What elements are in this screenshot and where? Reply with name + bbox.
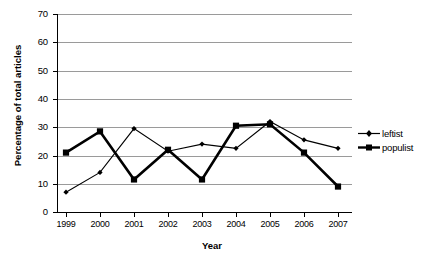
data-point-populist-1999: [63, 150, 69, 156]
x-tick-2002: [168, 213, 169, 217]
x-tick-2003: [202, 213, 203, 217]
leftist-marker-icon: [358, 127, 380, 140]
legend-item-leftist[interactable]: leftist: [358, 127, 424, 141]
y-tick-label-20: 20: [22, 151, 48, 161]
x-tick-2007: [338, 213, 339, 217]
data-point-leftist-1999: [63, 190, 68, 195]
y-tick-label-50: 50: [22, 66, 48, 76]
y-tick-label-10: 10: [22, 179, 48, 189]
y-tick-0: [53, 212, 57, 213]
y-tick-label-30: 30: [22, 122, 48, 132]
x-tick-2001: [134, 213, 135, 217]
data-point-populist-2000: [97, 128, 103, 134]
legend-item-populist[interactable]: populist: [358, 141, 424, 155]
legend: leftist populist: [358, 127, 424, 155]
x-axis-title: Year: [0, 240, 424, 251]
x-tick-1999: [66, 213, 67, 217]
x-tick-2005: [270, 213, 271, 217]
data-point-populist-2001: [131, 176, 137, 182]
series-layer: [57, 14, 352, 212]
x-tick-2006: [304, 213, 305, 217]
data-point-populist-2003: [199, 176, 205, 182]
populist-marker-icon: [358, 141, 380, 154]
data-point-populist-2004: [233, 123, 239, 129]
data-point-populist-2006: [301, 150, 307, 156]
legend-label-populist: populist: [382, 142, 413, 153]
y-axis-title: Percentage of total articles: [12, 31, 23, 181]
data-point-populist-2002: [165, 147, 171, 153]
data-point-leftist-2007: [335, 146, 340, 151]
legend-label-leftist: leftist: [382, 128, 403, 139]
x-tick-2000: [100, 213, 101, 217]
y-tick-label-70: 70: [22, 9, 48, 19]
y-tick-label-60: 60: [22, 37, 48, 47]
y-tick-label-40: 40: [22, 94, 48, 104]
data-point-leftist-2006: [301, 137, 306, 142]
data-point-leftist-2003: [199, 142, 204, 147]
x-tick-2004: [236, 213, 237, 217]
x-tick-label-2007: 2007: [318, 219, 358, 229]
y-tick-label-0: 0: [22, 207, 48, 217]
data-point-populist-2007: [335, 183, 341, 189]
x-axis-line: [57, 212, 352, 213]
data-point-populist-2005: [267, 121, 273, 127]
line-chart: 70 60 50 40 30 20 10 0 1999 2000 2001 20…: [0, 0, 424, 270]
